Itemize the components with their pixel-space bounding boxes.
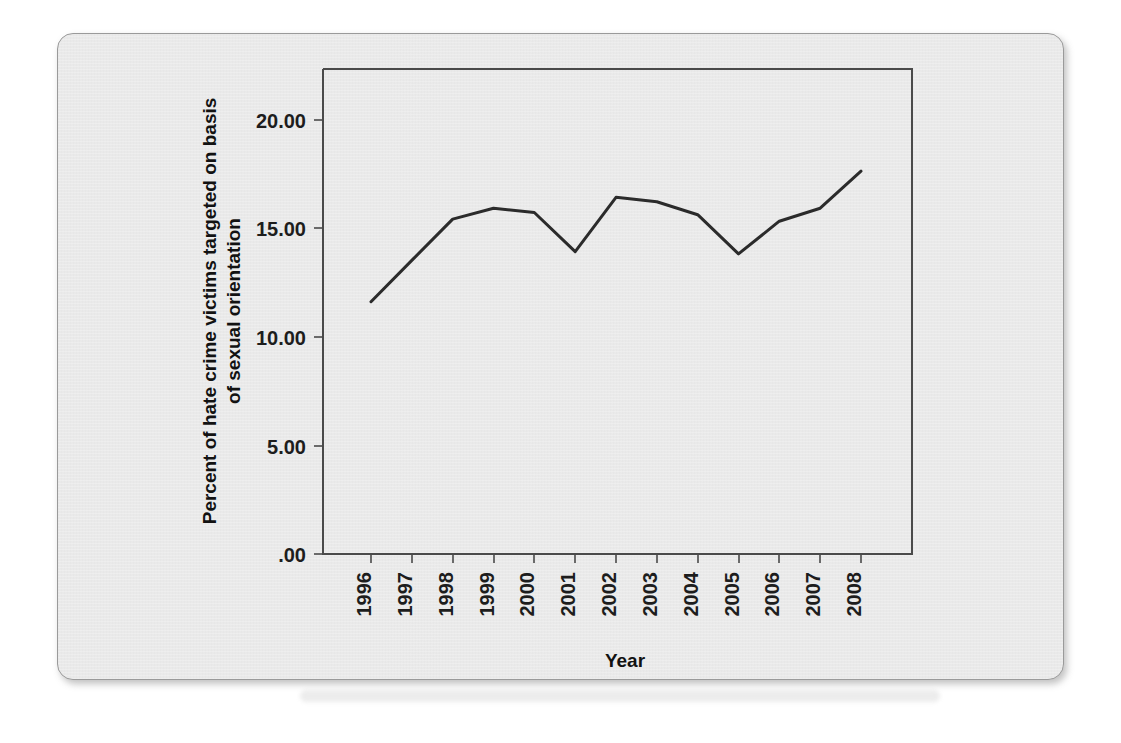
y-axis-tick-labels: 20.00 15.00 10.00 5.00 .00 <box>256 110 306 566</box>
x-tick-label-2000: 2000 <box>516 572 538 617</box>
plot-frame <box>323 69 912 554</box>
y-tick-label-15: 15.00 <box>256 218 306 240</box>
x-tick-label-2006: 2006 <box>761 572 783 617</box>
x-tick-label-2001: 2001 <box>557 572 579 617</box>
x-tick-label-2004: 2004 <box>680 571 702 616</box>
x-tick-label-2008: 2008 <box>843 572 865 617</box>
x-tick-label-2002: 2002 <box>598 572 620 617</box>
x-tick-label-1998: 1998 <box>435 572 457 617</box>
y-axis-title-line-2: of sexual orientation <box>223 218 244 404</box>
x-tick-label-2005: 2005 <box>721 572 743 617</box>
x-axis-ticks <box>371 554 861 563</box>
data-series-line <box>371 171 861 302</box>
y-tick-label-5: 5.00 <box>267 436 306 458</box>
x-axis-tick-labels: 1996 1997 1998 1999 2000 2001 2002 2003 … <box>353 571 865 616</box>
x-tick-label-2007: 2007 <box>802 572 824 617</box>
y-axis-ticks <box>314 120 323 554</box>
x-tick-label-1997: 1997 <box>394 572 416 617</box>
y-axis-title: Percent of hate crime victims targeted o… <box>199 98 244 525</box>
y-tick-label-0: .00 <box>278 544 306 566</box>
x-tick-label-2003: 2003 <box>639 572 661 617</box>
y-tick-label-10: 10.00 <box>256 327 306 349</box>
x-tick-label-1996: 1996 <box>353 572 375 617</box>
y-tick-label-20: 20.00 <box>256 110 306 132</box>
x-tick-label-1999: 1999 <box>476 572 498 617</box>
x-axis-title: Year <box>605 650 646 671</box>
line-chart: 20.00 15.00 10.00 5.00 .00 1996 1997 <box>0 0 1121 743</box>
y-axis-title-line-1: Percent of hate crime victims targeted o… <box>199 98 220 525</box>
screenshot-root: 20.00 15.00 10.00 5.00 .00 1996 1997 <box>0 0 1121 743</box>
